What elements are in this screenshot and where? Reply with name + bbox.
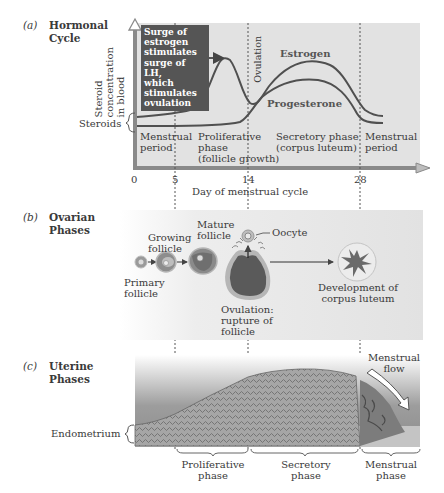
callout-line: stimulates <box>144 47 206 57</box>
uterine-menstrual-label: Menstrual phase <box>356 459 426 481</box>
callout-line: stimulates <box>144 88 206 98</box>
label-line: flow <box>364 363 424 374</box>
phase-line: Secretory phase <box>276 131 359 142</box>
phase-proliferative: Proliferative phase (follicle growth) <box>198 131 279 164</box>
primary-follicle-label: Primary follicle <box>124 277 165 299</box>
phase-menstrual-period-1: Menstrual period <box>140 131 192 153</box>
section-a-title-line2: Cycle <box>23 32 108 45</box>
phase-line: Proliferative <box>198 131 279 142</box>
section-b-heading: (b)Ovarian Phases <box>23 211 95 237</box>
ovulation-rupture-label: Ovulation: rupture of follicle <box>221 304 274 337</box>
menstrual-flow-label: Menstrual flow <box>364 352 424 374</box>
menstrual-brace-icon <box>362 449 420 456</box>
label-line: rupture of <box>221 315 274 326</box>
ovulation-label: Ovulation <box>252 36 263 83</box>
corpus-luteum-label: Development of corpus luteum <box>318 282 398 304</box>
callout-line: estrogen <box>144 37 206 47</box>
x-axis-label: Day of menstrual cycle <box>192 186 308 197</box>
phase-line: (corpus luteum) <box>276 142 359 153</box>
label-line: Secretory <box>265 459 347 470</box>
label-line: Menstrual <box>364 352 424 363</box>
section-c-title-line2: Phases <box>23 373 94 386</box>
oocyte-icon <box>242 230 254 242</box>
y-axis <box>133 28 137 167</box>
callout-line: which <box>144 78 206 88</box>
label-line: phase <box>172 470 254 481</box>
mature-follicle-icon <box>189 248 217 274</box>
label-line: Menstrual <box>356 459 426 470</box>
section-c-heading: (c)Uterine Phases <box>23 360 94 386</box>
proliferative-brace-icon <box>177 449 248 456</box>
label-line: Proliferative <box>172 459 254 470</box>
phase-menstrual-period-2: Menstrual period <box>365 131 417 153</box>
diagram-graphics <box>0 0 444 493</box>
section-a-letter: (a) <box>23 19 49 32</box>
estrogen-label: Estrogen <box>280 48 330 59</box>
label-line: follicle <box>148 243 191 254</box>
label-line: follicle <box>124 288 165 299</box>
x-tick-28: 28 <box>354 174 367 185</box>
growing-follicle-label: Growing follicle <box>148 232 191 254</box>
y-axis-label-line2: concentration <box>104 47 115 117</box>
label-line: Primary <box>124 277 165 288</box>
y-axis-label: Steroid concentration in blood <box>93 47 126 117</box>
mature-follicle-label: Mature follicle <box>197 219 234 241</box>
lh-surge-callout: Surge of estrogen stimulates surge of LH… <box>141 25 209 111</box>
x-tick-14: 14 <box>242 174 255 185</box>
x-tick-0: 0 <box>131 174 137 185</box>
callout-line: ovulation <box>144 98 206 108</box>
y-axis-label-line3: in blood <box>115 47 126 117</box>
growing-follicle-icon <box>156 252 176 272</box>
phase-line: Menstrual <box>140 131 192 142</box>
oocyte-label: Oocyte <box>272 227 307 238</box>
label-line: follicle <box>197 230 234 241</box>
phase-braces <box>177 449 420 456</box>
section-b-title: Ovarian <box>49 211 95 223</box>
callout-line: Surge of <box>144 27 206 37</box>
y-axis-label-line1: Steroid <box>93 47 104 117</box>
x-axis-arrow-icon <box>416 163 430 173</box>
phase-secretory: Secretory phase (corpus luteum) <box>276 131 359 153</box>
uterine-proliferative-label: Proliferative phase <box>172 459 254 481</box>
phase-line: period <box>365 142 417 153</box>
phase-line: phase <box>198 142 279 153</box>
secretory-brace-icon <box>251 449 358 456</box>
phase-line: (follicle growth) <box>198 153 279 164</box>
x-tick-5: 5 <box>172 174 178 185</box>
label-line: phase <box>265 470 347 481</box>
label-line: Mature <box>197 219 234 230</box>
callout-line: surge of LH, <box>144 58 206 78</box>
section-c-title: Uterine <box>49 360 94 372</box>
x-axis <box>133 166 420 170</box>
steroids-label: Steroids <box>79 118 121 129</box>
endometrium-label: Endometrium <box>51 428 120 439</box>
section-a-title: Hormonal <box>49 19 108 31</box>
phase-line: Menstrual <box>365 131 417 142</box>
corpus-luteum-icon <box>338 243 376 281</box>
section-b-letter: (b) <box>23 211 49 224</box>
section-c-letter: (c) <box>23 360 49 373</box>
section-a-heading: (a)Hormonal Cycle <box>23 19 108 45</box>
phase-line: period <box>140 142 192 153</box>
label-line: Development of <box>318 282 398 293</box>
progesterone-label: Progesterone <box>267 98 342 109</box>
label-line: corpus luteum <box>318 293 398 304</box>
primary-follicle-icon <box>135 256 147 268</box>
label-line: phase <box>356 470 426 481</box>
uterine-secretory-label: Secretory phase <box>265 459 347 481</box>
section-b-title-line2: Phases <box>23 224 95 237</box>
label-line: follicle <box>221 326 274 337</box>
endometrium-brace-icon <box>125 425 134 443</box>
label-line: Growing <box>148 232 191 243</box>
label-line: Ovulation: <box>221 304 274 315</box>
